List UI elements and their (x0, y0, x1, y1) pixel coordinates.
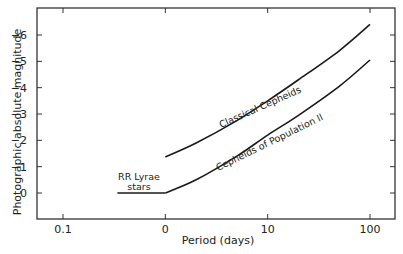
chart: 0−1−2−3−4−5−60.1010100 Photographic abso… (0, 0, 403, 254)
x-tick-label: 0.1 (54, 223, 72, 236)
plot-border (37, 8, 395, 219)
annotation-rr-lyrae-stars: stars (127, 181, 150, 192)
axis-ticks: 0−1−2−3−4−5−60.1010100 (11, 8, 395, 236)
y-axis-label: Photographic absolute magnitude (11, 29, 24, 216)
x-tick-label: 0 (162, 223, 169, 236)
x-axis-label: Period (days) (182, 234, 254, 247)
x-tick-label: 100 (360, 223, 381, 236)
plot-frame (37, 8, 395, 219)
series-line (165, 60, 370, 193)
x-tick-label: 10 (261, 223, 275, 236)
annotation-classical-cepheids: Classical Cepheids (217, 84, 302, 130)
